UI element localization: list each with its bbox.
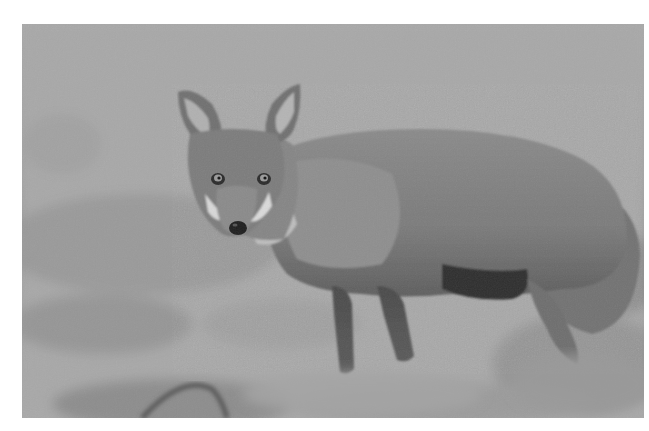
fox-photograph: Black-and-white photograph of a fox stan… <box>22 24 644 418</box>
page: Black-and-white photograph of a fox stan… <box>0 0 649 431</box>
fox-scene <box>22 24 644 418</box>
